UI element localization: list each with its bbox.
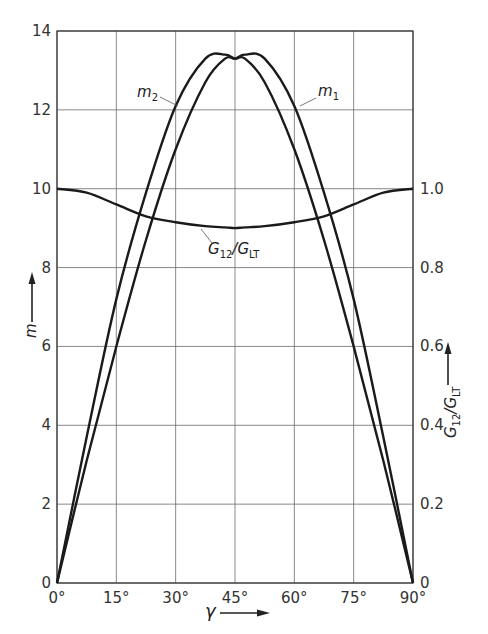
y-tick-label: 8 xyxy=(41,259,51,277)
x-tick-label: 30° xyxy=(162,589,189,607)
y-tick-label: 12 xyxy=(32,101,51,119)
y2-tick-label: 0 xyxy=(420,574,430,592)
y-axis-label: m xyxy=(22,272,40,338)
y-tick-label: 6 xyxy=(41,337,51,355)
y2-axis-label: G12/GLT xyxy=(442,342,462,438)
chart: 0°15°30°45°60°75°90°0246810121400.20.40.… xyxy=(0,0,488,634)
y-tick-label: 14 xyxy=(32,22,51,40)
svg-text:m1: m1 xyxy=(318,82,339,102)
y2-tick-label: 0.8 xyxy=(420,259,444,277)
label-m1: m1 xyxy=(300,82,339,106)
label-g-ratio: G12/GLT xyxy=(201,229,260,260)
leader-m1 xyxy=(300,98,316,106)
svg-text:m: m xyxy=(22,323,40,338)
y-tick-label: 10 xyxy=(32,180,51,198)
y2-tick-label: 0.4 xyxy=(420,416,444,434)
y-tick-label: 4 xyxy=(41,416,51,434)
y2-tick-label: 1.0 xyxy=(420,180,444,198)
svg-text:m2: m2 xyxy=(137,83,158,103)
label-m2: m2 xyxy=(137,83,178,106)
svg-text:G12/GLT: G12/GLT xyxy=(208,240,260,260)
y2-axis-arrowhead-icon xyxy=(445,342,452,354)
y-tick-label: 0 xyxy=(41,574,51,592)
x-tick-label: 15° xyxy=(103,589,130,607)
x-tick-label: 60° xyxy=(281,589,308,607)
leader-g-ratio xyxy=(201,229,212,243)
svg-text:G12/GLT: G12/GLT xyxy=(442,386,462,438)
y2-tick-label: 0.6 xyxy=(420,337,444,355)
x-axis-arrowhead-icon xyxy=(257,610,270,617)
y-tick-label: 2 xyxy=(41,495,51,513)
y-axis-arrowhead-icon xyxy=(29,272,36,284)
x-tick-label: 75° xyxy=(340,589,367,607)
x-tick-label: 45° xyxy=(222,589,249,607)
grid xyxy=(57,31,413,583)
x-tick-label: 0° xyxy=(48,589,65,607)
svg-text:γ: γ xyxy=(205,600,217,621)
y2-tick-label: 0.2 xyxy=(420,495,444,513)
